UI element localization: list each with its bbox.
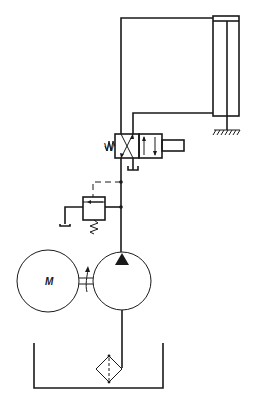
motor-label: M (45, 276, 54, 287)
pump (93, 252, 151, 368)
hydraulic-circuit-diagram: W M (0, 0, 256, 394)
solenoid-icon (162, 140, 184, 151)
line-a-to-cylinder (121, 18, 213, 134)
pilot-line (93, 182, 121, 197)
relief-valve (60, 182, 121, 234)
triangle-icon (115, 253, 129, 265)
valve-position-parallel (139, 134, 162, 158)
filter-icon (96, 355, 122, 384)
cylinder (213, 16, 240, 135)
arrow-icon (87, 200, 91, 204)
reservoir (34, 343, 163, 388)
cylinder-body (213, 16, 239, 116)
directional-valve: W (104, 134, 184, 170)
line-b-to-cylinder (133, 113, 213, 134)
rotation-arrow-icon (86, 270, 88, 292)
relief-tank-line (65, 207, 83, 224)
ground-icon (213, 130, 240, 135)
shaft-coupling (79, 266, 93, 292)
relief-valve-body (83, 197, 105, 220)
spring-icon (90, 220, 98, 234)
motor: M (17, 250, 79, 312)
tank-icon (60, 224, 70, 226)
spring-label: W (104, 141, 115, 153)
